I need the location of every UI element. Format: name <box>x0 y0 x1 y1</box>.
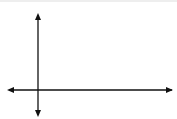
y-axis-down-arrow-icon <box>35 110 41 117</box>
x-axis-left-arrow-icon <box>7 87 14 93</box>
axes <box>7 13 173 117</box>
y-axis-up-arrow-icon <box>35 13 41 20</box>
x-axis-right-arrow-icon <box>166 87 173 93</box>
coordinate-plane <box>0 0 177 119</box>
